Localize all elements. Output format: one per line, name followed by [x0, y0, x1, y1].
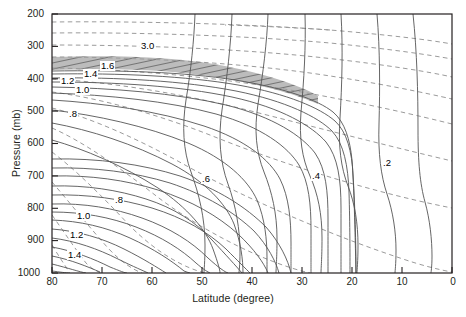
x-tick-label-40: 40 [237, 276, 267, 287]
contour-label-p4: .4 [311, 171, 321, 181]
contour-label-3p0-upper: 3.0 [140, 41, 155, 51]
x-tick-label-70: 70 [87, 276, 117, 287]
y-tick-label-300: 300 [10, 40, 44, 51]
contour-label-1p6: 1.6 [100, 61, 115, 71]
x-tick-label-50: 50 [187, 276, 217, 287]
y-tick-label-1000: 1000 [6, 267, 40, 278]
x-tick-label-60: 60 [137, 276, 167, 287]
x-axis-title: Latitude (degree) [0, 292, 466, 304]
x-tick-label-0: 0 [438, 276, 466, 287]
plot-frame [52, 14, 452, 273]
x-tick-label-20: 20 [337, 276, 367, 287]
y-axis-title: Pressure (mb) [10, 83, 22, 203]
y-axis-ticks [52, 14, 58, 273]
x-tick-label-80: 80 [37, 276, 67, 287]
plot-canvas [0, 0, 466, 317]
contour-label-p8-upper: .8 [68, 109, 78, 119]
solid-contour-group [52, 14, 432, 273]
contour-plot-figure: 200 300 400 500 600 700 800 900 1000 80 … [0, 0, 466, 317]
contour-label-1p4-upper: 1.4 [83, 69, 98, 79]
y-tick-label-200: 200 [10, 8, 44, 19]
y-tick-label-800: 800 [10, 202, 44, 213]
contour-label-1p2-lower: 1.2 [69, 230, 84, 240]
contour-label-p8-lower: .8 [114, 195, 124, 205]
contour-label-1p4-lower: 1.4 [67, 250, 82, 260]
contour-label-1p0-lower: 1.0 [76, 211, 91, 221]
contour-label-p6: .6 [201, 174, 211, 184]
x-tick-label-30: 30 [287, 276, 317, 287]
x-tick-label-10: 10 [387, 276, 417, 287]
contour-label-p2: .2 [382, 158, 392, 168]
y-tick-label-900: 900 [10, 234, 44, 245]
contour-label-1p0-upper: 1.0 [75, 85, 90, 95]
contour-label-1p2-upper: 1.2 [60, 76, 75, 86]
